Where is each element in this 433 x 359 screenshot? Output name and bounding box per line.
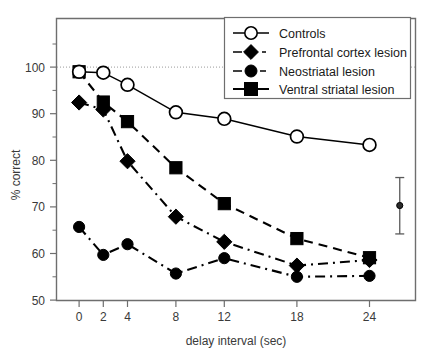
data-point-controls-0 <box>73 65 86 78</box>
data-point-ventral-striatal-lesion-8 <box>170 162 182 174</box>
legend-entry-ventral-striatal-lesion: Ventral striatal lesion <box>233 83 394 97</box>
y-ticklabel-100: 100 <box>25 61 45 75</box>
data-point-ventral-striatal-lesion-12 <box>218 198 230 210</box>
data-point-controls-4 <box>121 78 134 91</box>
y-ticklabel-80: 80 <box>32 154 46 168</box>
data-point-controls-2 <box>97 66 110 79</box>
x-ticklabel-4: 4 <box>124 310 131 324</box>
x-ticklabel-24: 24 <box>363 310 377 324</box>
data-point-neostriatal-lesion-0 <box>74 221 85 232</box>
legend: Controls Prefrontal cortex lesion Neostr… <box>225 18 411 99</box>
chart-figure: 100 90 80 70 60 50 % correct 0 2 4 8 12 … <box>0 0 433 359</box>
data-point-ventral-striatal-lesion-4 <box>121 116 133 128</box>
data-point-neostriatal-lesion-8 <box>170 268 181 279</box>
y-ticklabel-50: 50 <box>32 294 46 308</box>
y-ticklabel-90: 90 <box>32 107 46 121</box>
legend-label-prefrontal-cortex-lesion: Prefrontal cortex lesion <box>279 46 407 60</box>
x-ticklabel-0: 0 <box>76 310 83 324</box>
data-point-ventral-striatal-lesion-18 <box>291 232 303 244</box>
y-axis-label: % correct <box>9 149 23 200</box>
x-axis-tick-labels: 0 2 4 8 12 18 24 <box>76 310 377 324</box>
data-point-neostriatal-lesion-18 <box>291 271 302 282</box>
y-axis-tick-labels: 100 90 80 70 60 50 <box>25 61 45 308</box>
data-point-neostriatal-lesion-24 <box>364 270 375 281</box>
y-axis-ticks <box>50 44 57 300</box>
y-ticklabel-70: 70 <box>32 200 46 214</box>
data-point-controls-12 <box>218 112 231 125</box>
legend-label-neostriatal-lesion: Neostriatal lesion <box>279 65 375 79</box>
x-ticklabel-18: 18 <box>290 310 304 324</box>
x-axis-ticks <box>79 301 369 308</box>
x-ticklabel-8: 8 <box>173 310 180 324</box>
x-axis-label: delay interval (sec) <box>186 334 287 348</box>
legend-entry-neostriatal-lesion: Neostriatal lesion <box>233 65 375 79</box>
x-ticklabel-2: 2 <box>100 310 107 324</box>
chart-svg: 100 90 80 70 60 50 % correct 0 2 4 8 12 … <box>0 0 433 359</box>
data-point-controls-8 <box>170 106 183 119</box>
legend-label-controls: Controls <box>279 27 326 41</box>
error-bar <box>395 178 404 234</box>
x-ticklabel-12: 12 <box>218 310 232 324</box>
data-point-neostriatal-lesion-4 <box>122 239 133 250</box>
legend-label-ventral-striatal-lesion: Ventral striatal lesion <box>279 83 394 97</box>
data-point-prefrontal-cortex-lesion-0 <box>72 95 87 110</box>
filled-circle-icon <box>245 65 257 77</box>
legend-entry-controls: Controls <box>233 27 326 41</box>
data-point-neostriatal-lesion-12 <box>219 253 230 264</box>
data-point-prefrontal-cortex-lesion-12 <box>217 234 232 249</box>
y-ticklabel-60: 60 <box>32 247 46 261</box>
data-point-controls-24 <box>363 139 376 152</box>
filled-square-icon <box>245 83 258 96</box>
data-point-neostriatal-lesion-2 <box>98 249 109 260</box>
data-point-controls-18 <box>291 130 304 143</box>
series-line-ventral-striatal-lesion <box>79 72 369 258</box>
error-bar-mean-marker <box>397 202 403 208</box>
series-neostriatal-lesion <box>74 221 376 282</box>
open-circle-icon <box>245 27 257 39</box>
